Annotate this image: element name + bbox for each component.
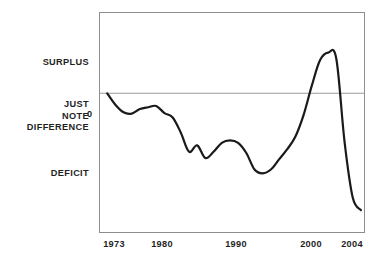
chart-figure: SURPLUS JUST NOTE DIFFERENCE DEFICIT 0 1… <box>0 0 379 268</box>
axis-label-surplus: SURPLUS <box>0 57 89 69</box>
axis-label-just-note-difference: JUST NOTE DIFFERENCE <box>0 99 89 134</box>
x-axis-tick-2000: 2000 <box>291 239 331 250</box>
axis-label-just: JUST <box>0 99 89 111</box>
axis-label-note: NOTE <box>0 111 89 123</box>
x-axis-tick-1990: 1990 <box>216 239 256 250</box>
axis-label-difference: DIFFERENCE <box>0 122 89 134</box>
y-axis-tick-zero: 0 <box>78 109 92 120</box>
data-series-line <box>107 50 361 210</box>
x-axis-tick-1973: 1973 <box>94 239 134 250</box>
plot-area <box>99 12 365 233</box>
x-axis-tick-1980: 1980 <box>142 239 182 250</box>
x-axis-tick-2004: 2004 <box>332 239 372 250</box>
axis-label-deficit: DEFICIT <box>0 168 89 180</box>
